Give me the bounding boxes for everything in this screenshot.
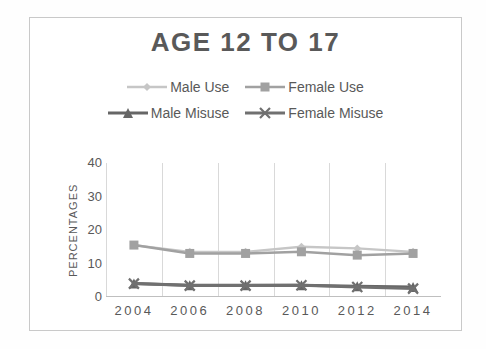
- y-tick-label: 10: [78, 256, 102, 272]
- x-tick-label: 2014: [385, 303, 441, 318]
- series-line-female-misuse: [134, 284, 413, 289]
- x-tick-label: 2004: [106, 303, 162, 318]
- chart-title: AGE 12 TO 17: [30, 27, 461, 58]
- legend: Male Use Female Use Male Misuse Female M…: [30, 79, 461, 121]
- female-use-marker: [409, 249, 418, 258]
- legend-label-female-use: Female Use: [288, 79, 363, 95]
- x-tick-label: 2006: [162, 303, 218, 318]
- legend-label-male-misuse: Male Misuse: [151, 105, 230, 121]
- female-use-marker: [129, 241, 138, 250]
- female-use-marker: [297, 247, 306, 256]
- legend-row-2: Male Misuse Female Misuse: [108, 105, 384, 121]
- legend-label-female-misuse: Female Misuse: [288, 105, 383, 121]
- legend-item-female-use: Female Use: [245, 79, 363, 95]
- plot-area: [106, 163, 441, 297]
- legend-item-female-misuse: Female Misuse: [245, 105, 383, 121]
- legend-item-male-use: Male Use: [127, 79, 229, 95]
- female-misuse-marker-icon: [245, 106, 285, 120]
- female-use-marker: [353, 251, 362, 260]
- y-tick-label: 30: [78, 189, 102, 205]
- male-use-marker-icon: [127, 80, 167, 94]
- legend-item-male-misuse: Male Misuse: [108, 105, 230, 121]
- male-misuse-marker-icon: [108, 106, 148, 120]
- legend-label-male-use: Male Use: [170, 79, 229, 95]
- y-tick-label: 40: [78, 155, 102, 171]
- x-tick-label: 2012: [329, 303, 385, 318]
- x-tick-label: 2010: [273, 303, 329, 318]
- female-use-legend-marker: [261, 83, 270, 92]
- chart-container: AGE 12 TO 17 Male Use Female Use Male Mi…: [29, 17, 462, 331]
- y-tick-label: 20: [78, 222, 102, 238]
- y-tick-label: 0: [78, 289, 102, 305]
- y-axis-ticks: 010203040: [78, 163, 102, 297]
- series-female-misuse: [129, 279, 418, 294]
- male-use-legend-marker: [143, 83, 151, 91]
- x-axis-ticks: 200420062008201020122014: [106, 303, 441, 319]
- female-use-marker-icon: [245, 80, 285, 94]
- legend-row-1: Male Use Female Use: [127, 79, 364, 95]
- x-tick-label: 2008: [218, 303, 274, 318]
- female-use-marker: [241, 249, 250, 258]
- female-use-marker: [185, 249, 194, 258]
